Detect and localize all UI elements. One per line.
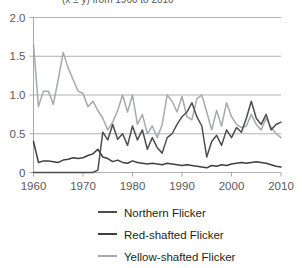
y-tick-label: 1.5 [10,50,26,62]
legend-label: Yellow-shafted Flicker [124,251,236,263]
gridlines [34,18,282,173]
y-tick-label: 0 [19,167,25,179]
data-series-group [34,45,282,173]
x-tick-label: 1960 [21,180,47,192]
flicker-trend-figure: (x ± y) from 1960 to 2010 00.51.01.52.0 … [0,0,302,268]
y-tick-label: 1.0 [10,89,26,101]
x-tick-label: 2010 [268,180,294,192]
y-axis-labels: 00.51.01.52.0 [10,12,26,179]
chart-legend: Northern FlickerRed-shafted FlickerYello… [98,207,236,263]
y-axis-ticks [30,18,34,173]
x-tick-label: 2000 [219,180,245,192]
legend-label: Northern Flicker [124,207,206,219]
x-tick-label: 1990 [169,180,195,192]
x-tick-label: 1970 [70,180,96,192]
x-tick-label: 1980 [120,180,146,192]
line-chart: 00.51.01.52.0 196019701980199020002010 N… [0,0,302,268]
series-line-red-shafted-flicker [34,142,282,168]
legend-label: Red-shafted Flicker [124,229,224,241]
chart-title: (x ± y) from 1960 to 2010 [62,0,174,5]
chart-title-strip: (x ± y) from 1960 to 2010 [0,0,302,9]
y-tick-label: 2.0 [10,12,26,24]
y-tick-label: 0.5 [10,128,26,140]
x-axis-labels: 196019701980199020002010 [21,180,294,192]
